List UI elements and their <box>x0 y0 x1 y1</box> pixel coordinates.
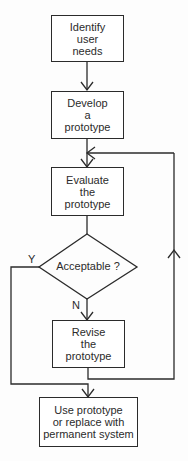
node-text: user <box>77 33 98 45</box>
no-label: N <box>72 299 80 311</box>
node-evaluate-prototype: Evaluate the prototype <box>51 167 124 216</box>
node-text: or replace with <box>53 416 125 428</box>
node-revise-prototype: Revise the prototype <box>52 320 125 368</box>
node-text: needs <box>73 45 103 57</box>
node-text: Evaluate <box>66 174 109 186</box>
node-text: permanent system <box>43 428 133 440</box>
yes-label: Y <box>28 253 35 265</box>
node-text: Revise <box>72 326 106 338</box>
node-identify-user-needs: Identify user needs <box>51 15 124 62</box>
prototyping-flowchart: Identify user needs Develop a prototype … <box>0 0 188 461</box>
node-text: Use prototype <box>54 404 122 416</box>
node-text: a <box>84 109 90 121</box>
connector-lines <box>0 0 188 461</box>
node-text: the <box>81 338 96 350</box>
node-text: Identify <box>70 21 105 33</box>
node-acceptable-decision: Acceptable ? <box>45 260 131 272</box>
node-develop-prototype: Develop a prototype <box>51 91 124 139</box>
node-use-or-replace: Use prototype or replace with permanent … <box>39 397 138 447</box>
node-text: Develop <box>67 97 107 109</box>
node-text: prototype <box>66 350 112 362</box>
node-text: prototype <box>65 121 111 133</box>
node-text: the <box>80 186 95 198</box>
node-text: prototype <box>65 198 111 210</box>
